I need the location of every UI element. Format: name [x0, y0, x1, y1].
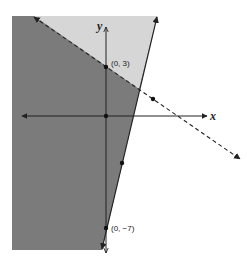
x-axis-label: x [209, 109, 216, 123]
point-0-neg7-label: (0, −7) [111, 224, 135, 233]
point-3-1 [151, 97, 155, 101]
point-0-3 [104, 65, 108, 69]
origin-point [104, 114, 108, 118]
inequality-graph: x y (0, 3) (0, −7) [0, 0, 247, 264]
y-axis-label: y [95, 19, 103, 33]
point-1-neg3 [120, 161, 124, 165]
point-0-3-label: (0, 3) [111, 59, 130, 68]
point-0-neg7 [104, 226, 108, 230]
